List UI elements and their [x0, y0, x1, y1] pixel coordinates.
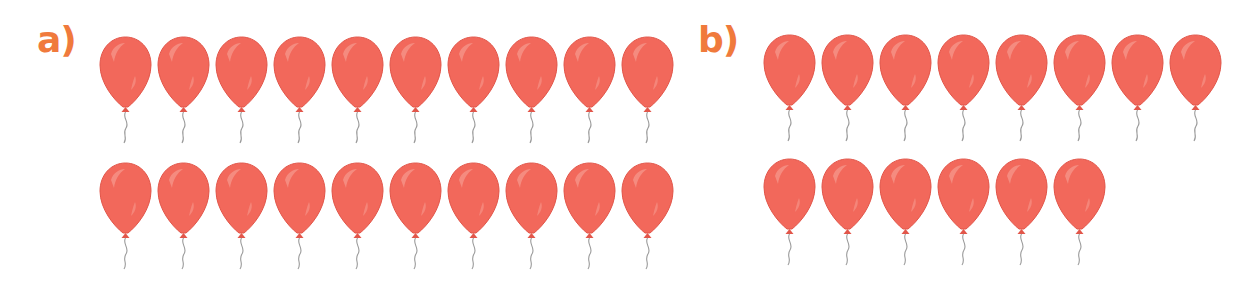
balloon-icon — [215, 162, 268, 272]
balloon-icon — [563, 162, 616, 272]
balloon-icon — [157, 162, 210, 272]
balloon-icon — [99, 36, 152, 146]
group-a-row-1 — [99, 36, 674, 146]
balloon-icon — [447, 162, 500, 272]
group-b-label: b) — [698, 22, 738, 58]
balloon-icon — [157, 36, 210, 146]
balloon-icon — [821, 158, 874, 268]
balloon-icon — [995, 158, 1048, 268]
balloon-icon — [879, 34, 932, 144]
balloon-icon — [1053, 158, 1106, 268]
balloon-icon — [273, 162, 326, 272]
balloon-icon — [1169, 34, 1222, 144]
balloon-icon — [505, 162, 558, 272]
balloon-icon — [879, 158, 932, 268]
balloon-icon — [505, 36, 558, 146]
balloon-icon — [621, 36, 674, 146]
group-a-label: a) — [37, 22, 76, 58]
balloon-icon — [447, 36, 500, 146]
group-b-row-1 — [763, 34, 1222, 144]
balloon-icon — [331, 162, 384, 272]
group-a-row-2 — [99, 162, 674, 272]
group-b-row-2 — [763, 158, 1106, 268]
balloon-icon — [1053, 34, 1106, 144]
balloon-icon — [763, 34, 816, 144]
balloon-icon — [215, 36, 268, 146]
balloon-icon — [937, 158, 990, 268]
balloon-icon — [389, 36, 442, 146]
balloon-icon — [621, 162, 674, 272]
balloon-icon — [995, 34, 1048, 144]
balloon-icon — [821, 34, 874, 144]
balloon-icon — [763, 158, 816, 268]
balloon-icon — [1111, 34, 1164, 144]
balloon-icon — [389, 162, 442, 272]
balloon-icon — [937, 34, 990, 144]
balloon-icon — [99, 162, 152, 272]
balloon-icon — [563, 36, 616, 146]
balloon-icon — [273, 36, 326, 146]
balloon-icon — [331, 36, 384, 146]
